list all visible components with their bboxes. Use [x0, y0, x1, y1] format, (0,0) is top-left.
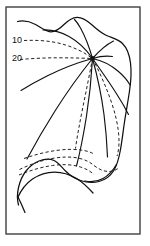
figure-container: 10 20 [0, 0, 150, 246]
contour-label-20: 20 [12, 53, 22, 63]
vein-convergence-node [90, 56, 95, 61]
contour-label-10: 10 [12, 35, 22, 45]
figure-canvas: 10 20 [0, 0, 150, 246]
